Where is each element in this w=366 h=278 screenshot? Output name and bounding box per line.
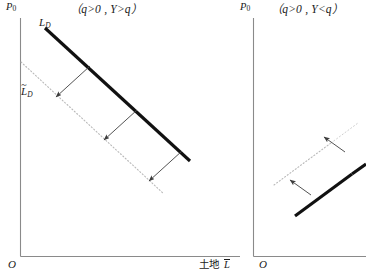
left-origin-label: O xyxy=(8,259,16,270)
left-x-axis-label-math: L xyxy=(224,259,230,271)
left-solid-curve-label: LD xyxy=(39,17,51,29)
right-solid-curve-upper xyxy=(352,164,366,174)
right-dotted-curve xyxy=(274,143,331,185)
left-panel-title: （q>0 , Y>q） xyxy=(70,4,142,16)
left-x-axis-label-cjk: 土地 xyxy=(199,259,219,270)
right-panel-title: （q>0 , Y<q） xyxy=(271,4,343,16)
tilde-accent: ~ xyxy=(21,80,27,90)
right-origin-label: O xyxy=(259,259,267,270)
right-shift-arrow-1 xyxy=(290,180,311,195)
left-panel-group xyxy=(21,18,241,257)
figure-root: P0 （q>0 , Y>q） LD ~LD O 土地 L P0 （q>0 , Y… xyxy=(0,0,366,278)
left-dotted-demand-curve xyxy=(21,62,164,194)
left-y-axis-label: P0 xyxy=(6,2,16,13)
left-dotted-curve-label: ~LD xyxy=(21,86,33,98)
left-shift-arrow-1 xyxy=(56,66,90,97)
left-shift-arrow-3 xyxy=(149,151,182,181)
right-panel-group xyxy=(254,18,366,257)
right-dotted-curve-ext xyxy=(331,123,358,143)
right-shift-arrow-2 xyxy=(324,137,345,152)
figure-canvas xyxy=(0,0,366,278)
left-shift-arrow-2 xyxy=(104,110,137,140)
left-solid-demand-curve xyxy=(45,28,190,161)
overline-accent: L xyxy=(224,259,230,271)
right-y-axis-label: P0 xyxy=(240,2,250,13)
right-solid-curve xyxy=(295,174,352,216)
